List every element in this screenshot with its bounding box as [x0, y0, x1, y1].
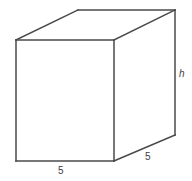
front-face [16, 40, 114, 161]
prism-figure: 5 5 h [0, 0, 192, 181]
dimension-label-depth: 5 [145, 152, 151, 162]
dimension-label-height: h [179, 69, 185, 79]
dimension-label-width: 5 [58, 166, 64, 176]
prism-drawing [0, 0, 192, 181]
